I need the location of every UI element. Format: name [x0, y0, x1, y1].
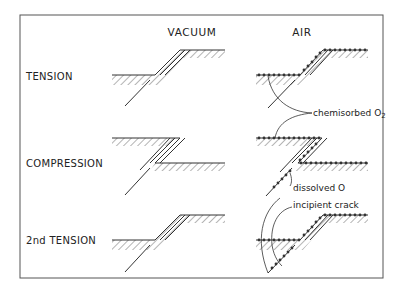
row-label-compression: COMPRESSION: [26, 158, 103, 169]
annotation-dissolved: dissolved O: [290, 173, 345, 193]
vacuum-tension-step: [112, 50, 225, 106]
annotation-dissolved-text: dissolved O: [293, 183, 345, 193]
air-second-tension-step: [256, 214, 368, 273]
annotation-chemisorbed-text: chemisorbed O: [313, 108, 381, 118]
slip-step-diagram: VACUUM AIR TENSION COMPRESSION 2nd TENSI…: [0, 0, 399, 293]
vacuum-compression-step: [112, 138, 225, 195]
row-label-tension: TENSION: [25, 71, 73, 82]
row-label-second-tension: 2nd TENSION: [26, 235, 96, 246]
svg-text:chemisorbed O2: chemisorbed O2: [313, 108, 386, 120]
annotation-chemisorbed-subscript: 2: [381, 112, 385, 120]
annotation-incipient-crack-text: incipient crack: [293, 200, 360, 210]
column-header-vacuum: VACUUM: [168, 26, 217, 38]
vacuum-second-tension-step: [112, 215, 225, 272]
air-tension-step: [256, 49, 368, 108]
annotation-chemisorbed: chemisorbed O2: [268, 76, 386, 138]
column-header-air: AIR: [292, 26, 311, 38]
